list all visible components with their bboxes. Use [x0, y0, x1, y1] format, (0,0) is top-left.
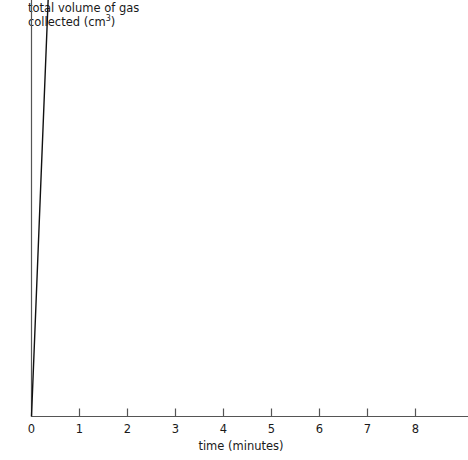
- x-tick-label: 0: [28, 422, 35, 436]
- data-series-curve: [32, 0, 416, 417]
- x-tick-label: 8: [412, 422, 419, 436]
- x-tick-label: 2: [124, 422, 131, 436]
- x-axis-title: time (minutes): [0, 440, 468, 454]
- x-tick-label: 7: [364, 422, 371, 436]
- x-tick-label: 4: [220, 422, 227, 436]
- x-tick-label: 6: [316, 422, 323, 436]
- x-tick-label: 1: [76, 422, 83, 436]
- x-axis-ticks: 012345678: [28, 409, 419, 436]
- plot-area: 1020304050607080 012345678: [0, 0, 468, 460]
- gas-volume-line-chart: total volume of gascollected (cm3) 10203…: [0, 0, 468, 460]
- x-tick-label: 3: [172, 422, 179, 436]
- x-tick-label: 5: [268, 422, 275, 436]
